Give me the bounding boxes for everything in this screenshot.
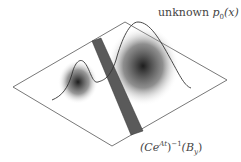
diagram-canvas [0,0,241,162]
label-var: p [213,6,220,19]
label-exp: At [159,140,167,148]
label-arg-open: (B [182,141,194,154]
label-inv: −1 [171,140,181,148]
preimage-label: (CeAt)−1(By) [140,140,202,156]
label-arg: (x) [224,6,239,19]
label-arg-close: ) [198,141,202,154]
label-text: unknown [158,6,213,19]
unknown-density-label: unknown p0(x) [158,6,239,21]
small-density-blob [58,60,98,104]
label-open: (C [140,141,153,154]
